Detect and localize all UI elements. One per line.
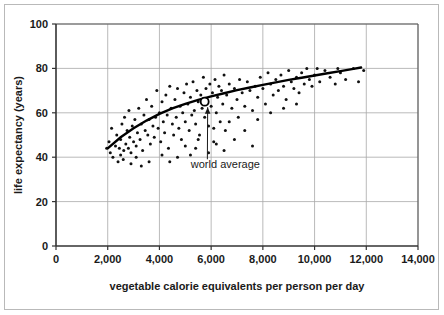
data-point — [230, 107, 233, 110]
data-point — [108, 140, 111, 143]
data-point — [274, 78, 277, 81]
data-point — [298, 91, 301, 94]
data-point — [192, 80, 195, 83]
plot-frame — [56, 24, 418, 246]
data-point — [285, 98, 288, 101]
data-point — [135, 145, 138, 148]
data-point — [256, 118, 259, 121]
data-point — [117, 160, 120, 163]
data-point — [279, 74, 282, 77]
data-point — [215, 142, 218, 145]
fitted-trend-line — [108, 68, 361, 149]
data-point — [238, 78, 241, 81]
data-point — [300, 71, 303, 74]
data-point — [142, 114, 145, 117]
data-point — [144, 129, 147, 132]
data-point — [168, 85, 171, 88]
data-point — [129, 151, 132, 154]
annotation-arrow — [205, 107, 211, 159]
scatter-chart: 02,0004,0006,0008,00010,00012,00014,000 … — [0, 0, 444, 315]
data-point — [180, 138, 183, 141]
data-point — [181, 111, 184, 114]
data-point — [123, 116, 126, 119]
data-point — [204, 87, 207, 90]
data-point — [129, 162, 132, 165]
x-tick-label: 2,000 — [94, 253, 122, 265]
data-point — [246, 80, 249, 83]
data-point — [208, 82, 211, 85]
data-point — [198, 134, 201, 137]
x-tick-label: 12,000 — [349, 253, 383, 265]
data-point — [141, 149, 144, 152]
data-point — [329, 76, 332, 79]
data-point — [212, 127, 215, 130]
chart-figure: 02,0004,0006,0008,00010,00012,00014,000 … — [0, 0, 444, 315]
data-point — [148, 160, 151, 163]
data-point — [161, 153, 164, 156]
data-point — [292, 87, 295, 90]
data-point — [237, 116, 240, 119]
data-point — [137, 107, 140, 110]
data-point — [251, 109, 254, 112]
data-point — [119, 153, 122, 156]
data-point — [223, 74, 226, 77]
data-point — [145, 98, 148, 101]
data-point — [269, 111, 272, 114]
data-point — [176, 87, 179, 90]
data-point — [243, 129, 246, 132]
data-point — [110, 127, 113, 130]
data-point — [316, 67, 319, 70]
data-point — [166, 114, 169, 117]
data-point — [162, 120, 165, 123]
data-point — [214, 78, 217, 81]
data-point — [136, 131, 139, 134]
data-point — [124, 142, 127, 145]
data-point — [171, 122, 174, 125]
world-average-circle — [201, 98, 209, 106]
y-tick-labels: 020406080100 — [30, 18, 48, 252]
data-point — [172, 134, 175, 137]
grid-lines — [56, 24, 418, 246]
data-point — [188, 129, 191, 132]
data-point — [344, 78, 347, 81]
data-point — [155, 89, 158, 92]
data-point — [323, 69, 326, 72]
data-point — [122, 149, 125, 152]
annotation-arrow-head — [205, 107, 211, 114]
data-point — [195, 89, 198, 92]
data-point — [318, 80, 321, 83]
data-point — [193, 109, 196, 112]
data-point — [224, 129, 227, 132]
x-tick-label: 0 — [53, 253, 59, 265]
data-point — [243, 105, 246, 108]
x-axis-title: vegetable calorie equivalents per person… — [110, 280, 366, 292]
data-point — [168, 160, 171, 163]
data-point — [212, 140, 215, 143]
data-point — [201, 107, 204, 110]
data-point — [133, 118, 136, 121]
data-point — [215, 111, 218, 114]
data-point — [185, 82, 188, 85]
tick-marks — [52, 24, 418, 250]
data-point — [210, 105, 213, 108]
data-point — [132, 140, 135, 143]
data-point — [236, 98, 239, 101]
data-point — [177, 127, 180, 130]
data-point — [194, 122, 197, 125]
data-point — [159, 140, 162, 143]
x-tick-label: 6,000 — [197, 253, 225, 265]
data-point — [287, 69, 290, 72]
data-point — [362, 69, 365, 72]
data-point — [336, 67, 339, 70]
data-point — [228, 82, 231, 85]
data-point — [157, 127, 160, 130]
data-point — [241, 91, 244, 94]
data-point — [295, 102, 298, 105]
x-tick-label: 10,000 — [298, 253, 332, 265]
data-point — [202, 76, 205, 79]
data-point — [256, 96, 259, 99]
data-point — [140, 165, 143, 168]
data-point — [184, 145, 187, 148]
data-point — [199, 94, 202, 97]
data-point — [217, 85, 220, 88]
